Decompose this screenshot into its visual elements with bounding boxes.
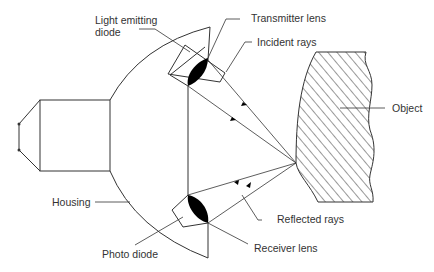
receiver-lens	[188, 195, 209, 223]
label-reflected-rays: Reflected rays	[277, 213, 344, 225]
label-receiver-lens: Receiver lens	[254, 242, 318, 254]
housing	[110, 27, 210, 258]
object	[296, 52, 374, 202]
label-led-line2: diode	[95, 26, 121, 38]
label-led-line1: Light emitting	[95, 14, 158, 26]
label-housing: Housing	[52, 196, 91, 208]
incident-rays	[188, 60, 296, 163]
label-incident-rays: Incident rays	[257, 36, 317, 48]
label-photo-diode: Photo diode	[102, 248, 158, 260]
connector	[18, 100, 111, 171]
label-transmitter-lens: Transmitter lens	[251, 12, 326, 24]
transmitter-lens	[168, 45, 225, 86]
sensor-diagram: Light emitting diode Transmitter lens In…	[0, 0, 434, 272]
label-object: Object	[392, 102, 422, 114]
